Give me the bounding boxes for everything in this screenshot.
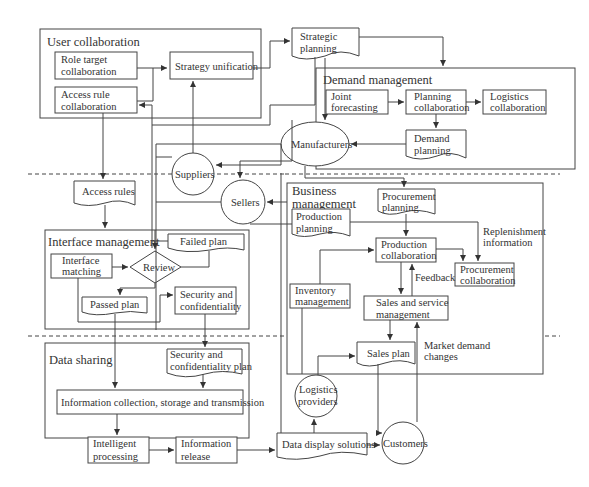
svg-text:planning: planning (382, 202, 419, 213)
svg-text:Role target: Role target (61, 54, 107, 65)
svg-text:Strategy unification: Strategy unification (175, 61, 259, 72)
svg-text:management: management (295, 296, 349, 307)
svg-text:Data display solutions: Data display solutions (282, 439, 375, 450)
svg-text:forecasting: forecasting (331, 102, 378, 113)
edge-label-replenishment: Replenishment (483, 226, 546, 237)
svg-text:providers: providers (298, 396, 338, 407)
svg-text:Production: Production (381, 239, 428, 250)
svg-text:Logistics: Logistics (490, 91, 529, 102)
group-title: User collaboration (47, 35, 140, 49)
svg-text:Review: Review (143, 262, 175, 273)
svg-text:Intelligent: Intelligent (93, 438, 136, 449)
svg-text:collaboration: collaboration (414, 102, 470, 113)
svg-text:Security and: Security and (170, 349, 224, 360)
svg-text:planning: planning (414, 145, 451, 156)
svg-text:Information collection, storag: Information collection, storage and tran… (61, 397, 265, 408)
svg-text:Inventory: Inventory (295, 285, 337, 296)
svg-text:Logistics: Logistics (299, 384, 338, 395)
svg-text:planning: planning (296, 223, 333, 234)
svg-text:Suppliers: Suppliers (175, 169, 215, 180)
flowchart-canvas: User collaboration Demand management Int… (0, 0, 589, 487)
svg-text:Production: Production (296, 211, 343, 222)
svg-text:Planning: Planning (414, 91, 452, 102)
edge-label-feedback: Feedback (415, 272, 456, 283)
svg-text:Failed plan: Failed plan (180, 236, 228, 247)
svg-text:collaboration: collaboration (381, 250, 437, 261)
svg-text:collaboration: collaboration (490, 102, 546, 113)
svg-text:Security and: Security and (180, 289, 234, 300)
svg-text:confidentiality plan: confidentiality plan (170, 361, 253, 372)
group-title: Interface management (48, 235, 160, 249)
group-title: Demand management (323, 73, 433, 87)
svg-text:management: management (376, 309, 430, 320)
group-title: Business (292, 184, 337, 198)
group-title: Data sharing (49, 353, 113, 367)
svg-text:Access rule: Access rule (61, 89, 110, 100)
svg-text:collaboration: collaboration (61, 66, 117, 77)
svg-text:Strategic: Strategic (300, 31, 338, 42)
svg-text:Information: Information (181, 438, 232, 449)
svg-text:Access rules: Access rules (82, 186, 135, 197)
svg-text:collaboration: collaboration (460, 275, 516, 286)
svg-text:Joint: Joint (331, 91, 352, 102)
svg-text:planning: planning (300, 43, 337, 54)
svg-text:confidentiality: confidentiality (180, 301, 242, 312)
edge-label-replenishment: information (483, 237, 533, 248)
svg-text:Procurement: Procurement (382, 191, 436, 202)
svg-text:Sales and service: Sales and service (376, 297, 449, 308)
svg-text:matching: matching (62, 266, 102, 277)
svg-text:Manufacturers: Manufacturers (291, 139, 352, 150)
edge-label-market-demand: Market demand (424, 340, 491, 351)
svg-text:release: release (181, 451, 210, 462)
svg-text:Interface: Interface (62, 255, 100, 266)
svg-text:processing: processing (93, 451, 139, 462)
svg-text:Sellers: Sellers (231, 197, 260, 208)
svg-text:Passed plan: Passed plan (90, 299, 140, 310)
svg-text:Sales plan: Sales plan (367, 348, 411, 359)
svg-text:Customers: Customers (383, 438, 428, 449)
svg-text:Demand: Demand (414, 133, 450, 144)
svg-text:collaboration: collaboration (61, 101, 117, 112)
svg-text:Procurement: Procurement (460, 264, 514, 275)
edge-label-market-demand: changes (424, 351, 458, 362)
